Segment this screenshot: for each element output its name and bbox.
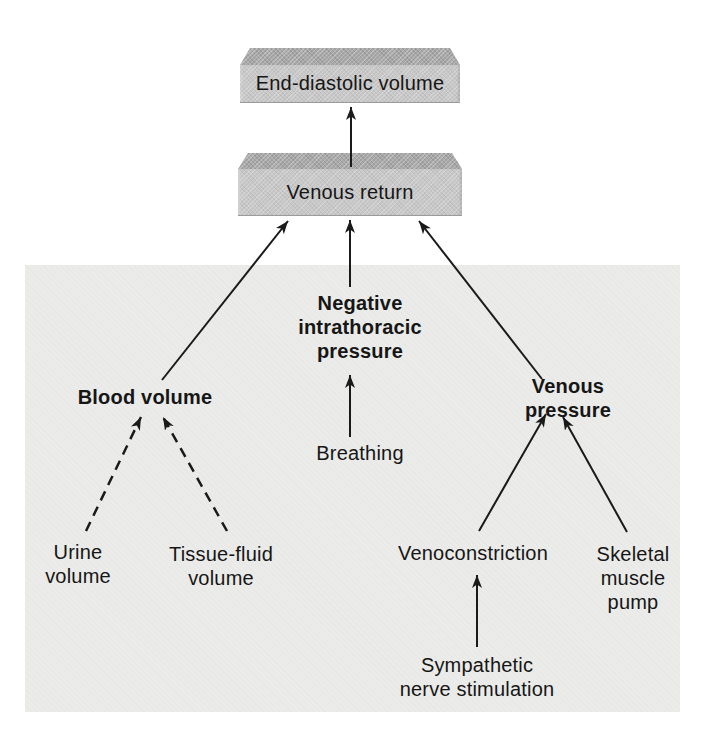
node-urine-volume: Urine volume <box>45 540 111 588</box>
box-top-face <box>238 153 462 169</box>
box-front-face: End-diastolic volume <box>240 65 460 103</box>
node-label-venous-return: Venous return <box>286 181 413 204</box>
box-top-face <box>240 48 460 65</box>
node-venoconstriction: Venoconstriction <box>398 541 548 565</box>
flowchart-figure: End-diastolic volume Venous return Negat… <box>0 0 715 735</box>
node-tissue-fluid-volume: Tissue-fluid volume <box>169 542 273 590</box>
node-skeletal-muscle-pump: Skeletal muscle pump <box>597 542 670 614</box>
node-negative-intrathoracic-pressure: Negative intrathoracic pressure <box>298 291 422 363</box>
box-front-face: Venous return <box>238 169 462 216</box>
node-label-end-diastolic-volume: End-diastolic volume <box>256 72 445 95</box>
node-blood-volume: Blood volume <box>78 385 213 409</box>
node-end-diastolic-volume: End-diastolic volume <box>240 48 460 102</box>
node-venous-return: Venous return <box>238 153 462 215</box>
node-breathing: Breathing <box>316 441 403 465</box>
node-sympathetic-nerve-stimulation: Sympathetic nerve stimulation <box>400 653 555 701</box>
node-venous-pressure: Venous pressure <box>495 374 642 422</box>
